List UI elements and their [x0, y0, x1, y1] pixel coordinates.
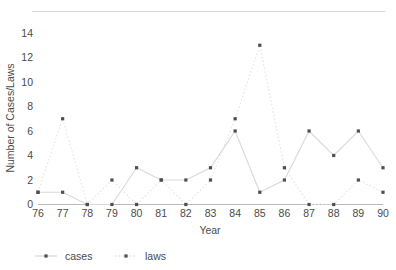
- y-axis-tick-label: 4: [27, 149, 33, 161]
- x-axis-tick-label: 82: [180, 207, 192, 219]
- data-series-layer: [36, 44, 384, 206]
- data-point-laws: [135, 203, 138, 206]
- legend-label-cases: cases: [65, 250, 92, 262]
- data-point-laws: [61, 117, 64, 120]
- series-cases: [36, 129, 384, 206]
- legend-item-cases[interactable]: cases: [35, 250, 92, 262]
- data-point-laws: [283, 166, 286, 169]
- x-axis-tick-label: 81: [155, 207, 167, 219]
- data-point-cases: [381, 166, 384, 169]
- data-point-laws: [160, 178, 163, 181]
- x-axis-tick-label: 83: [205, 207, 217, 219]
- line-chart-plot: 02468101214 7677787980818283848586878889…: [0, 0, 396, 270]
- y-axis-tick-label: 12: [21, 51, 33, 63]
- legend-marker-cases: [44, 254, 47, 257]
- x-axis-tick-label: 80: [131, 207, 143, 219]
- data-point-laws: [357, 178, 360, 181]
- y-axis-tick-label: 10: [21, 76, 33, 88]
- chart-container: 02468101214 7677787980818283848586878889…: [0, 0, 396, 270]
- data-point-laws: [258, 44, 261, 47]
- data-point-cases: [332, 154, 335, 157]
- x-axis-tick-labels: 767778798081828384858687888990: [32, 207, 389, 219]
- y-axis-tick-label: 6: [27, 125, 33, 137]
- x-axis-tick-label: 84: [229, 207, 241, 219]
- x-axis-tick-label: 87: [303, 207, 315, 219]
- y-axis-tick-label: 2: [27, 174, 33, 186]
- y-axis-tick-label: 14: [21, 27, 33, 39]
- data-point-laws: [184, 203, 187, 206]
- data-point-cases: [209, 166, 212, 169]
- data-point-laws: [110, 178, 113, 181]
- data-point-cases: [283, 178, 286, 181]
- data-point-cases: [258, 191, 261, 194]
- data-point-cases: [234, 129, 237, 132]
- x-axis-tick-label: 90: [377, 207, 389, 219]
- x-axis-tick-label: 85: [254, 207, 266, 219]
- data-point-laws: [86, 203, 89, 206]
- header-divider: [32, 11, 385, 12]
- legend-label-laws: laws: [145, 250, 166, 262]
- data-point-cases: [110, 203, 113, 206]
- x-axis-tick-label: 86: [279, 207, 291, 219]
- x-axis-tick-label: 77: [57, 207, 69, 219]
- data-point-laws: [307, 203, 310, 206]
- y-axis-tick-label: 8: [27, 100, 33, 112]
- data-point-laws: [209, 178, 212, 181]
- x-axis-title: Year: [199, 224, 221, 236]
- data-point-laws: [36, 191, 39, 194]
- data-point-laws: [234, 117, 237, 120]
- chart-legend: caseslaws: [35, 250, 166, 262]
- x-axis-tick-label: 89: [353, 207, 365, 219]
- data-point-cases: [184, 178, 187, 181]
- data-point-laws: [381, 191, 384, 194]
- data-point-cases: [307, 129, 310, 132]
- data-point-laws: [332, 203, 335, 206]
- x-axis-tick-label: 76: [32, 207, 44, 219]
- x-axis-tick-label: 78: [81, 207, 93, 219]
- x-axis-tick-label: 79: [106, 207, 118, 219]
- data-point-cases: [357, 129, 360, 132]
- y-axis-tick-labels: 02468101214: [21, 27, 33, 211]
- x-axis-tick-label: 88: [328, 207, 340, 219]
- legend-marker-laws: [124, 254, 127, 257]
- data-point-cases: [61, 191, 64, 194]
- legend-item-laws[interactable]: laws: [115, 250, 166, 262]
- y-axis-title: Number of Cases/Laws: [4, 63, 16, 172]
- data-point-cases: [135, 166, 138, 169]
- series-laws: [36, 44, 384, 206]
